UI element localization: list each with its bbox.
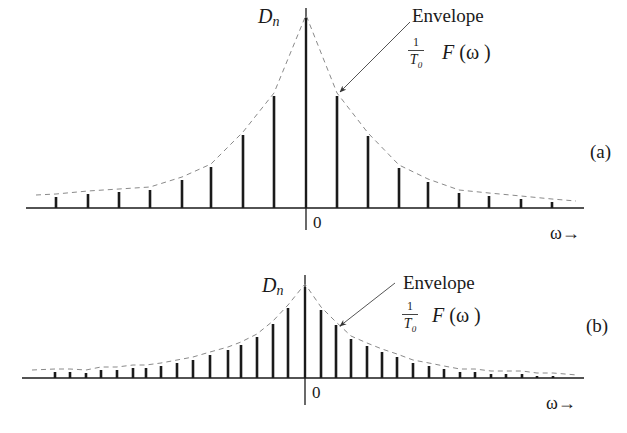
panel-a-envelope-fraction: 1 T0 xyxy=(408,36,424,70)
panel-a-tag: (a) xyxy=(590,142,611,161)
panel-b-envelope-function: F (ω ) xyxy=(432,305,481,325)
panel-a-ylabel: Dn xyxy=(258,6,279,29)
panel-a-plot xyxy=(26,8,584,230)
panel-b-tag: (b) xyxy=(586,316,608,335)
panel-b-origin-label: 0 xyxy=(312,384,321,401)
panel-b-ylabel: Dn xyxy=(262,275,283,298)
panel-b-envelope-fraction: 1 T0 xyxy=(402,300,418,334)
panel-b-plot xyxy=(22,275,584,405)
envelope-pointer-arrow xyxy=(340,283,395,326)
envelope-pointer-arrow xyxy=(340,22,410,92)
panel-a-origin-label: 0 xyxy=(313,214,322,231)
panel-a-envelope-label: Envelope xyxy=(412,6,484,25)
panel-a-xaxis-label: ω→ xyxy=(550,224,580,242)
panel-b-xaxis-label: ω→ xyxy=(546,394,576,412)
panel-a-envelope-function: F (ω ) xyxy=(442,42,491,62)
panel-b-envelope-label: Envelope xyxy=(403,273,475,292)
